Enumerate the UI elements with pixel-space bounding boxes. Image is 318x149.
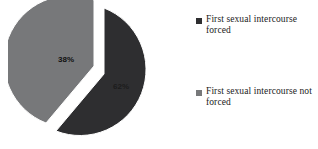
legend-square-icon [196, 90, 202, 96]
legend-item-label: First sexual intercourse forced [206, 14, 316, 36]
chart-legend: First sexual intercourse forced First se… [196, 10, 316, 108]
legend-item-label: First sexual intercourse not forced [206, 86, 316, 108]
legend-square-icon [196, 18, 202, 24]
pie-chart-figure: 38% 62% First sexual intercourse forced … [0, 0, 318, 149]
legend-item-not-forced[interactable]: First sexual intercourse not forced [196, 86, 316, 108]
pie-plot-area: 38% 62% [8, 0, 188, 149]
pie-svg: 38% 62% [8, 0, 188, 149]
legend-item-forced[interactable]: First sexual intercourse forced [196, 14, 316, 36]
slice-label-forced: 62% [113, 82, 129, 91]
slice-label-not-forced: 38% [58, 55, 74, 64]
